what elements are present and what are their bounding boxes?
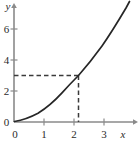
y-tick-label-2: 2 xyxy=(4,85,10,97)
x-tick-label-3: 3 xyxy=(101,128,107,140)
x-tick-label-2: 2 xyxy=(71,128,77,140)
graph-figure: 0 1 2 3 0 2 4 6 y x xyxy=(0,0,140,144)
x-axis-arrowhead-icon xyxy=(133,119,138,125)
origin-tick-label: 0 xyxy=(4,116,10,128)
x-axis xyxy=(14,119,138,125)
y-tick-label-6: 6 xyxy=(4,23,10,35)
plot-svg: 0 1 2 3 0 2 4 6 y x xyxy=(0,0,140,144)
curve-path xyxy=(15,2,130,122)
x-axis-label: x xyxy=(120,128,126,140)
y-tick-label-4: 4 xyxy=(4,54,10,66)
x-tick-label-1: 1 xyxy=(41,128,47,140)
intersection-guides xyxy=(14,76,79,123)
y-axis-label: y xyxy=(5,0,11,12)
x-tick-label-0: 0 xyxy=(12,128,18,140)
y-axis-arrowhead-icon xyxy=(11,3,17,8)
y-axis xyxy=(11,3,17,122)
